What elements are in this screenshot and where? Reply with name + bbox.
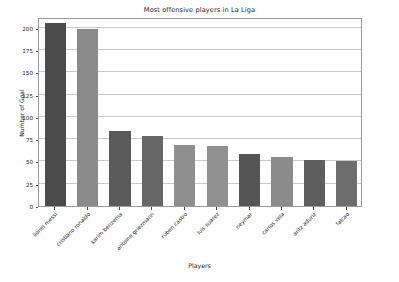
x-tick-mark xyxy=(249,207,250,210)
bar[interactable] xyxy=(239,154,260,206)
bar-slot xyxy=(142,17,163,206)
x-tick-mark xyxy=(313,207,314,210)
bar[interactable] xyxy=(207,146,228,206)
x-tick-mark xyxy=(184,207,185,210)
chart-figure: Most offensive players in La Liga Number… xyxy=(0,0,399,282)
x-tick-mark xyxy=(346,207,347,210)
bar[interactable] xyxy=(304,160,325,206)
bar[interactable] xyxy=(336,161,357,206)
x-tick-mark xyxy=(54,207,55,210)
bar-slot xyxy=(77,17,98,206)
bar-slot xyxy=(239,17,260,206)
y-tick-label: 75 xyxy=(26,137,33,143)
y-tick-label: 125 xyxy=(22,93,33,99)
y-tick-label: 50 xyxy=(26,159,33,165)
x-tick-mark xyxy=(281,207,282,210)
x-axis-label: Players xyxy=(0,262,399,269)
y-tick-label: 0 xyxy=(29,204,33,210)
chart-title: Most offensive players in La Liga xyxy=(0,6,399,14)
bar-slot xyxy=(207,17,228,206)
x-tick-mark xyxy=(151,207,152,210)
y-tick-label: 25 xyxy=(26,182,33,188)
bar-slot xyxy=(174,17,195,206)
x-tick-mark xyxy=(216,207,217,210)
plot-area xyxy=(38,18,362,207)
y-axis-ticks: 0255075100125150175200 xyxy=(0,18,38,207)
bar[interactable] xyxy=(142,136,163,206)
bar-slot xyxy=(304,17,325,206)
bar-slot xyxy=(45,17,66,206)
y-tick-label: 200 xyxy=(22,26,33,32)
y-tick-label: 150 xyxy=(22,70,33,76)
x-axis-ticks: lionel messicristiano ronaldokarim benze… xyxy=(38,207,362,257)
y-tick-label: 100 xyxy=(22,115,33,121)
y-tick-label: 175 xyxy=(22,48,33,54)
x-tick-mark xyxy=(87,207,88,210)
bar[interactable] xyxy=(109,131,130,206)
bar[interactable] xyxy=(77,29,98,206)
bar-slot xyxy=(271,17,292,206)
bar-slot xyxy=(109,17,130,206)
bar[interactable] xyxy=(45,23,66,206)
x-tick-mark xyxy=(119,207,120,210)
bar[interactable] xyxy=(174,145,195,207)
bar-slot xyxy=(336,17,357,206)
bar[interactable] xyxy=(271,157,292,206)
bar-series xyxy=(39,19,361,206)
